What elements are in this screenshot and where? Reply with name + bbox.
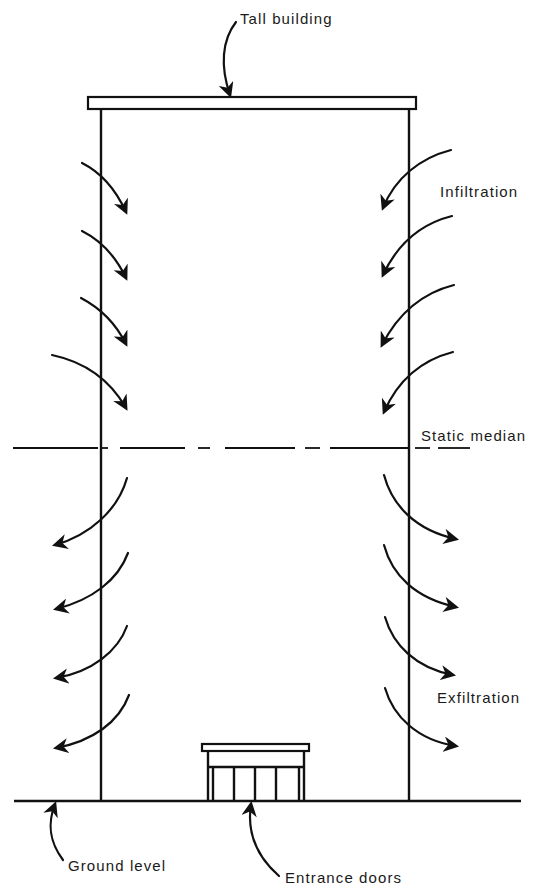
entrance-doors-label: Entrance doors xyxy=(285,869,402,886)
exfiltration-label: Exfiltration xyxy=(437,689,520,706)
building-label: Tall building xyxy=(240,10,333,27)
building-pointer-arrow xyxy=(224,22,236,95)
roof-slab xyxy=(88,97,416,109)
static-median-label: Static median xyxy=(421,427,526,444)
ground-level-label: Ground level xyxy=(68,857,166,874)
stack-effect-diagram xyxy=(0,0,550,894)
infiltration-arrows-left xyxy=(52,163,126,408)
entrance-doors xyxy=(202,744,309,800)
infiltration-label: Infiltration xyxy=(440,183,518,200)
ground-pointer-arrow xyxy=(50,804,63,860)
exfiltration-arrows-left xyxy=(55,478,129,748)
entrance-pointer-arrow xyxy=(250,804,279,876)
